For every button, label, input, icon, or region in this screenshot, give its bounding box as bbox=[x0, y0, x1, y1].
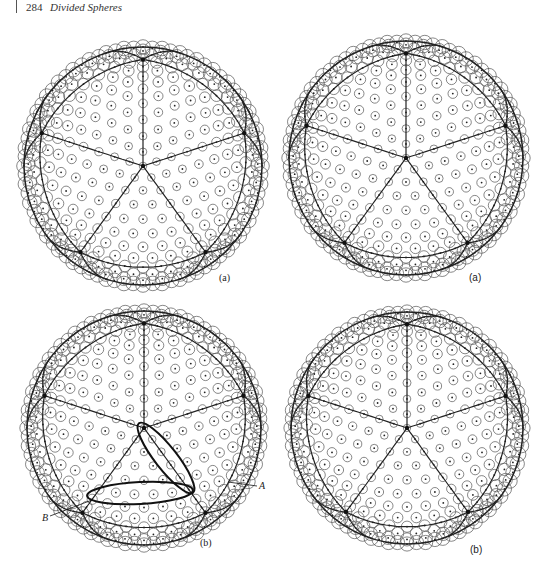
vertex-hub bbox=[80, 511, 84, 515]
icosahedron-edges bbox=[291, 316, 523, 538]
vertex-hub bbox=[503, 124, 507, 128]
figure-top-right: (a) bbox=[282, 34, 530, 283]
vertex-hub bbox=[465, 241, 469, 245]
vertex-hub bbox=[404, 51, 408, 55]
vertex-hub bbox=[404, 156, 408, 160]
panel-label: (a) bbox=[469, 272, 481, 283]
vertex-hub bbox=[142, 321, 146, 325]
vertex-hub bbox=[40, 131, 44, 135]
annotation-label-a: A bbox=[258, 480, 266, 491]
figure-bottom-right: (b) bbox=[284, 305, 530, 555]
icosahedron-edges bbox=[27, 315, 261, 539]
vertex-hub bbox=[203, 250, 207, 254]
vertex-hub bbox=[241, 394, 245, 398]
vertex-hub bbox=[344, 510, 348, 514]
vertex-hub bbox=[141, 57, 145, 61]
panel-label: (b) bbox=[200, 537, 212, 549]
vertex-hub bbox=[242, 131, 246, 135]
vertex-hub bbox=[304, 124, 308, 128]
figure-bottom-left: AB(b) bbox=[20, 304, 268, 552]
vertex-hub bbox=[141, 164, 145, 168]
panel-label: (a) bbox=[219, 272, 230, 284]
icosahedron-edges bbox=[289, 45, 523, 269]
vertex-hub bbox=[42, 394, 46, 398]
vertex-hub bbox=[405, 322, 409, 326]
annotation-label-b: B bbox=[42, 512, 48, 523]
geodesic-sphere-figures: (a) (a) AB(b) (b) bbox=[0, 0, 549, 572]
vertex-hub bbox=[203, 511, 207, 515]
vertex-hub bbox=[306, 394, 310, 398]
panel-label: (b) bbox=[470, 544, 482, 555]
vertex-hub bbox=[342, 241, 346, 245]
vertex-hub bbox=[142, 426, 146, 430]
icosahedron-edges bbox=[24, 51, 262, 279]
vertex-hub bbox=[78, 250, 82, 254]
vertex-hub bbox=[405, 426, 409, 430]
vertex-hub bbox=[466, 510, 470, 514]
figure-top-left: (a) bbox=[17, 40, 270, 293]
vertex-hub bbox=[504, 394, 508, 398]
